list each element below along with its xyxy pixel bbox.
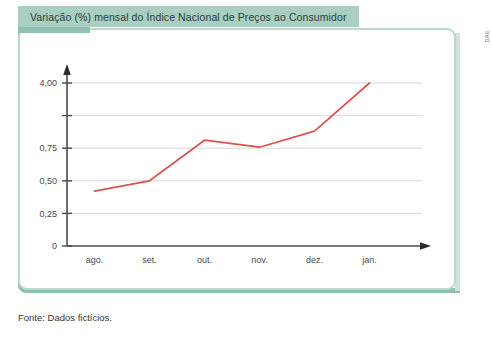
y-axis-tick-label: 0: [52, 241, 57, 251]
y-axis-tick-label: 4,00: [39, 78, 57, 88]
x-axis-tick-label: nov.: [251, 255, 267, 265]
y-axis-tick-label: 0,25: [39, 209, 57, 219]
y-axis-tick-label: 0,75: [39, 143, 57, 153]
x-axis-tick-label: jan.: [361, 255, 377, 265]
grid-lines: [67, 83, 422, 213]
source-note: Fonte: Dados fictícios.: [18, 312, 112, 323]
data-series-line: [95, 83, 370, 191]
x-axis-tick-label: ago.: [86, 255, 104, 265]
chart-plot-area: 00,250,500,754,00 ago.set.out.nov.dez.ja…: [18, 28, 456, 290]
x-axis-labels: ago.set.out.nov.dez.jan.: [86, 255, 377, 265]
x-axis-arrow-icon: [420, 242, 431, 250]
y-axis-arrow-icon: [63, 64, 71, 75]
title-banner-tab: [18, 27, 90, 33]
y-axis-labels: 00,250,500,754,00: [39, 78, 57, 251]
line-chart-svg: 00,250,500,754,00 ago.set.out.nov.dez.ja…: [18, 28, 456, 290]
page-title: Variação (%) mensal do Índice Nacional d…: [30, 11, 347, 23]
chart-title-banner: Variação (%) mensal do Índice Nacional d…: [18, 6, 359, 27]
x-axis-tick-label: out.: [197, 255, 212, 265]
x-axis-tick-label: dez.: [306, 255, 323, 265]
x-axis-tick-label: set.: [142, 255, 157, 265]
image-credit: DAE: [484, 30, 490, 43]
y-axis-tick-label: 0,50: [39, 176, 57, 186]
